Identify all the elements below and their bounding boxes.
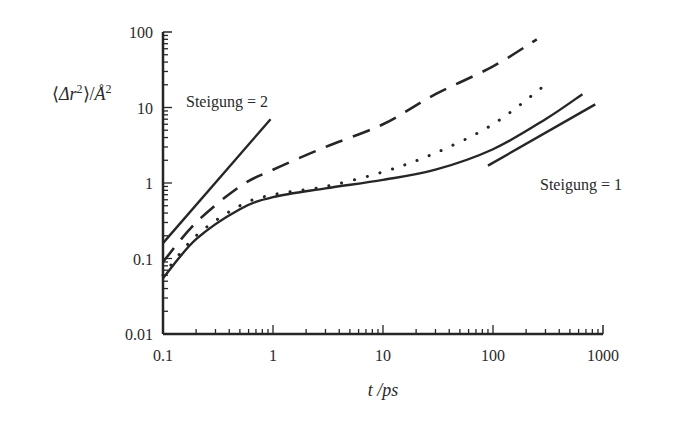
x-tick-label: 1000	[587, 347, 619, 364]
y-tick-label: 0.1	[133, 251, 153, 268]
ticks	[163, 32, 603, 334]
tick-labels: 0.010.11101000.11101001000	[125, 24, 619, 364]
y-tick-label: 1	[145, 175, 153, 192]
series	[163, 39, 595, 278]
y-tick-label: 10	[137, 100, 153, 117]
y-axis-title: ⟨Δr2⟩/Å2	[52, 82, 112, 104]
slope-1-annotation: Steigung = 1	[540, 176, 622, 194]
msd-log-log-chart: 0.010.11101000.11101001000 ⟨Δr2⟩/Å2 t /p…	[0, 0, 699, 421]
x-tick-label: 100	[481, 347, 505, 364]
x-tick-label: 0.1	[153, 347, 173, 364]
x-tick-label: 1	[269, 347, 277, 364]
x-tick-label: 10	[375, 347, 391, 364]
dashed-curve-line	[163, 39, 537, 262]
y-tick-label: 0.01	[125, 326, 153, 343]
y-tick-label: 100	[129, 24, 153, 41]
reference-slope-1-line	[488, 104, 595, 165]
axes	[163, 32, 603, 334]
dotted-curve-line	[163, 85, 545, 275]
slope-2-annotation: Steigung = 2	[186, 93, 268, 111]
solid-curve-line	[163, 94, 582, 278]
x-axis-title: t /ps	[368, 380, 399, 400]
